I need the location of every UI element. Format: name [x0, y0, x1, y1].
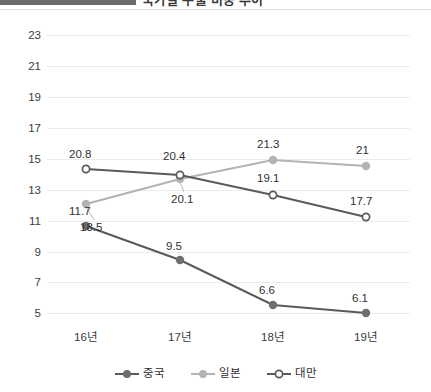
page-title: 국가별 수출 비중 추이: [142, 0, 263, 8]
data-label-japan: 21.3: [257, 139, 279, 151]
series-line-japan: [86, 160, 366, 204]
data-label-japan: 20.1: [171, 194, 193, 206]
title-strip: 국가별 수출 비중 추이: [0, 0, 431, 9]
legend-item-japan[interactable]: 일본: [191, 368, 241, 380]
data-point-china: [269, 301, 277, 309]
data-label-china: 9.5: [166, 241, 182, 253]
legend-label-china: 중국: [143, 368, 165, 380]
data-label-japan: 18.5: [80, 222, 102, 234]
data-label-china: 6.1: [352, 293, 368, 305]
data-label-china: 11.7: [69, 206, 91, 218]
legend-label-taiwan: 대만: [295, 368, 317, 380]
chart-legend: 중국 일본 대만: [0, 368, 431, 380]
data-label-taiwan: 19.1: [257, 173, 279, 185]
data-point-japan: [362, 162, 370, 170]
legend-item-taiwan[interactable]: 대만: [267, 368, 317, 380]
data-point-taiwan: [176, 171, 183, 178]
data-point-taiwan: [269, 191, 276, 198]
legend-marker-taiwan-icon: [267, 368, 291, 380]
data-label-taiwan: 20.8: [69, 149, 91, 161]
legend-label-japan: 일본: [219, 368, 241, 380]
data-label-taiwan: 20.4: [163, 151, 185, 163]
series-line-china: [86, 226, 366, 313]
x-axis-tick: 18년: [243, 332, 303, 344]
data-point-taiwan: [362, 213, 369, 220]
data-point-japan: [269, 156, 277, 164]
data-point-taiwan: [82, 165, 89, 172]
leader-line-japan-17: [180, 182, 184, 192]
x-axis-tick: 16년: [56, 332, 116, 344]
x-axis-tick: 17년: [150, 332, 210, 344]
title-accent-bar: [0, 0, 136, 5]
legend-marker-china-icon: [115, 368, 139, 380]
data-point-china: [362, 309, 370, 317]
x-axis-tick: 19년: [336, 332, 396, 344]
data-label-taiwan: 17.7: [350, 196, 372, 208]
data-label-japan: 21: [356, 145, 369, 157]
line-chart: 23 21 19 17 15 13 11 9 7 5 20.8 20.: [0, 10, 431, 392]
data-point-china: [176, 256, 184, 264]
legend-item-china[interactable]: 중국: [115, 368, 165, 380]
legend-marker-japan-icon: [191, 368, 215, 380]
data-label-china: 6.6: [259, 285, 275, 297]
